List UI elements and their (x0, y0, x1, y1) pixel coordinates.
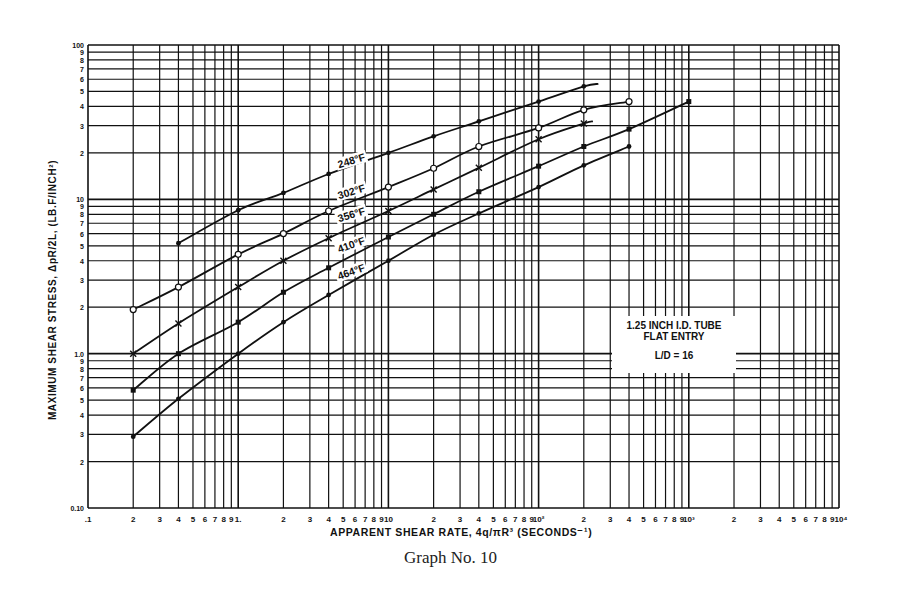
open-circle-marker (175, 284, 181, 290)
filled-dot-marker (281, 320, 286, 325)
svg-text:9: 9 (229, 515, 234, 524)
filled-dot-marker (326, 172, 331, 177)
svg-text:6: 6 (80, 231, 84, 238)
svg-text:6: 6 (80, 76, 84, 83)
filled-dot-marker (476, 211, 481, 216)
annotation-box: 1.25 INCH I.D. TUBE FLAT ENTRY L/D = 16 (614, 320, 734, 372)
svg-text:2: 2 (80, 150, 84, 157)
figure-caption: Graph No. 10 (0, 548, 901, 568)
filled-square-marker (176, 351, 181, 356)
svg-text:3: 3 (157, 515, 162, 524)
svg-text:2: 2 (281, 515, 286, 524)
filled-square-marker (686, 99, 691, 104)
svg-text:8: 8 (80, 57, 84, 64)
filled-dot-marker (431, 232, 436, 237)
open-circle-marker (280, 231, 286, 237)
svg-text:8: 8 (672, 515, 677, 524)
annotation-line-1: 1.25 INCH I.D. TUBE (626, 320, 721, 331)
open-circle-marker (431, 165, 437, 171)
svg-text:6: 6 (203, 515, 208, 524)
svg-text:4: 4 (80, 103, 84, 110)
svg-text:7: 7 (213, 515, 218, 524)
filled-dot-marker (176, 396, 181, 401)
svg-text:8: 8 (522, 515, 527, 524)
svg-text:7: 7 (80, 66, 84, 73)
filled-square-marker (627, 127, 632, 132)
svg-text:5: 5 (191, 515, 196, 524)
svg-text:9: 9 (80, 203, 84, 210)
open-circle-marker (130, 307, 136, 313)
svg-text:2: 2 (80, 459, 84, 466)
filled-square-marker (131, 388, 136, 393)
filled-dot-marker (536, 99, 541, 104)
open-circle-marker (626, 99, 632, 105)
y-axis-label: MAXIMUM SHEAR STRESS, ΔpR/2L, (LB.F/INCH… (47, 160, 58, 420)
svg-text:3: 3 (608, 515, 613, 524)
filled-square-marker (431, 212, 436, 217)
filled-dot-marker (581, 84, 586, 89)
svg-text:3: 3 (80, 277, 84, 284)
x-axis-label: APPARENT SHEAR RATE, 4q/πR³ (SECONDS⁻¹) (330, 526, 592, 538)
svg-text:2: 2 (582, 515, 587, 524)
filled-square-marker (536, 164, 541, 169)
annotation-line-3: L/D = 16 (614, 350, 734, 361)
svg-text:7: 7 (80, 220, 84, 227)
svg-text:3: 3 (458, 515, 463, 524)
svg-text:8: 8 (822, 515, 827, 524)
open-circle-marker (326, 208, 332, 214)
svg-text:5: 5 (80, 397, 84, 404)
svg-text:10⁴: 10⁴ (835, 515, 848, 524)
svg-text:10: 10 (384, 515, 393, 524)
svg-text:4: 4 (80, 412, 84, 419)
series-248F (176, 84, 598, 246)
filled-square-marker (386, 235, 391, 240)
filled-dot-marker (236, 351, 241, 356)
svg-text:10²: 10² (533, 515, 545, 524)
svg-text:100: 100 (72, 42, 84, 49)
svg-text:8: 8 (80, 366, 84, 373)
svg-text:4: 4 (627, 515, 632, 524)
svg-text:9: 9 (80, 358, 84, 365)
filled-dot-marker (536, 185, 541, 190)
log-log-chart: .1234567891.23456789102345678910²2345678… (0, 0, 901, 589)
svg-text:5: 5 (80, 88, 84, 95)
filled-dot-marker (326, 293, 331, 298)
svg-text:4: 4 (80, 258, 84, 265)
filled-square-marker (581, 144, 586, 149)
svg-text:8: 8 (372, 515, 377, 524)
filled-dot-marker (431, 134, 436, 139)
open-circle-marker (581, 107, 587, 113)
svg-text:6: 6 (653, 515, 658, 524)
open-circle-marker (536, 125, 542, 131)
svg-text:8: 8 (221, 515, 226, 524)
svg-text:2: 2 (131, 515, 136, 524)
grid-lines (88, 45, 839, 508)
filled-square-marker (476, 189, 481, 194)
svg-text:10³: 10³ (683, 515, 695, 524)
svg-text:7: 7 (80, 375, 84, 382)
filled-dot-marker (476, 119, 481, 124)
svg-text:6: 6 (503, 515, 508, 524)
svg-text:2: 2 (732, 515, 737, 524)
svg-text:0.10: 0.10 (70, 505, 84, 512)
svg-text:7: 7 (513, 515, 518, 524)
svg-text:5: 5 (641, 515, 646, 524)
filled-dot-marker (131, 434, 136, 439)
svg-text:.1: .1 (85, 515, 92, 524)
annotation-line-2: FLAT ENTRY (643, 331, 704, 342)
svg-text:1.0: 1.0 (74, 351, 84, 358)
svg-text:3: 3 (758, 515, 763, 524)
svg-text:5: 5 (491, 515, 496, 524)
svg-text:7: 7 (814, 515, 819, 524)
filled-dot-marker (281, 191, 286, 196)
svg-text:1.: 1. (235, 515, 242, 524)
svg-text:3: 3 (80, 123, 84, 130)
svg-text:5: 5 (792, 515, 797, 524)
svg-text:9: 9 (80, 49, 84, 56)
svg-text:7: 7 (363, 515, 368, 524)
svg-text:5: 5 (341, 515, 346, 524)
filled-square-marker (281, 290, 286, 295)
open-circle-marker (235, 251, 241, 257)
svg-text:4: 4 (326, 515, 331, 524)
svg-text:2: 2 (80, 304, 84, 311)
